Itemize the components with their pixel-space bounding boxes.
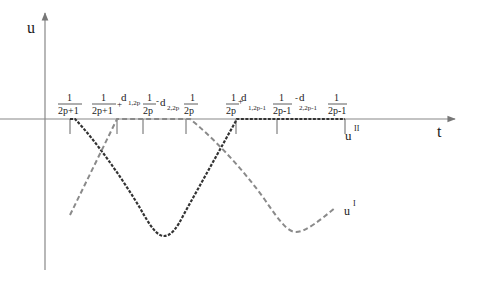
svg-text:2p+1: 2p+1	[58, 105, 79, 116]
svg-text:u: u	[345, 128, 352, 143]
svg-text:1: 1	[190, 92, 195, 103]
svg-text:1,2p: 1,2p	[128, 99, 141, 107]
tick-label-5: 1 2p-1 - d 2,2p-1	[273, 91, 318, 116]
svg-text:-: -	[156, 96, 159, 106]
svg-text:d: d	[121, 91, 127, 103]
tick-label-2: 1 2p - d 2,2p	[143, 92, 180, 116]
svg-text:2p: 2p	[143, 105, 153, 116]
svg-text:2p+1: 2p+1	[92, 105, 113, 116]
svg-text:1: 1	[101, 92, 106, 103]
tick-label-1: 1 2p+1 + d 1,2p	[92, 91, 141, 116]
u-axis-label: u	[27, 19, 35, 36]
curve-u-one	[70, 119, 335, 232]
tick-label-4: 1 2p + d 1,2p-1	[226, 91, 267, 116]
curve-u-two	[70, 119, 345, 236]
t-axis-label: t	[437, 123, 442, 140]
svg-text:-: -	[295, 93, 298, 103]
svg-text:II: II	[354, 124, 360, 133]
svg-text:u: u	[344, 204, 350, 218]
svg-text:1: 1	[67, 92, 72, 103]
tick-label-0: 1 2p+1	[58, 92, 82, 116]
svg-text:1: 1	[334, 92, 339, 103]
diagram-canvas: u t 1 2p+1 1 2p+1 + d 1,2p 1 2p - d 2,2p…	[0, 0, 480, 288]
svg-text:2p-1: 2p-1	[328, 105, 346, 116]
tick-label-6: 1 2p-1	[328, 92, 347, 116]
tick-label-3: 1 2p	[184, 92, 198, 116]
svg-text:2,2p-1: 2,2p-1	[299, 104, 318, 112]
svg-text:1: 1	[231, 92, 236, 103]
svg-text:1: 1	[279, 92, 284, 103]
svg-text:1,2p-1: 1,2p-1	[248, 104, 267, 112]
svg-text:1: 1	[147, 92, 152, 103]
svg-text:2,2p: 2,2p	[167, 104, 180, 112]
curve-label-u-one: u I	[344, 199, 356, 218]
svg-text:I: I	[353, 199, 356, 208]
svg-text:d: d	[241, 91, 247, 103]
svg-text:d: d	[160, 96, 166, 108]
svg-text:2p: 2p	[226, 105, 236, 116]
svg-text:d: d	[299, 91, 305, 103]
svg-text:2p: 2p	[184, 105, 194, 116]
curve-label-u-two: u II	[345, 124, 360, 143]
svg-text:2p-1: 2p-1	[273, 105, 291, 116]
